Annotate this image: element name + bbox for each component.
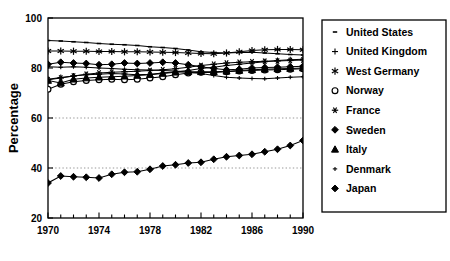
legend-label: Japan (346, 182, 376, 194)
x-tick-label: 1978 (139, 225, 162, 236)
x-tick-label: 1986 (241, 225, 264, 236)
legend-label: Italy (346, 143, 367, 155)
y-tick-label: 100 (25, 13, 42, 24)
legend-label: United States (346, 26, 413, 38)
legend-marker-circle-open (332, 88, 338, 94)
x-tick-label: 1974 (88, 225, 111, 236)
y-tick-label: 80 (31, 63, 43, 74)
y-axis-label: Percentage (6, 83, 21, 153)
legend-item-united-kingdom[interactable]: United Kingdom (332, 45, 427, 57)
legend-label: United Kingdom (346, 45, 427, 57)
legend-label: West Germany (346, 65, 419, 77)
x-tick-label: 1970 (37, 225, 60, 236)
x-tick-label: 1990 (292, 225, 315, 236)
y-tick-label: 40 (31, 163, 43, 174)
legend-label: Denmark (346, 163, 391, 175)
chart-legend: United StatesUnited KingdomWest GermanyN… (322, 20, 446, 212)
legend-label: Norway (346, 84, 384, 96)
y-tick-label: 60 (31, 113, 43, 124)
legend-item-west-germany[interactable]: West Germany (332, 65, 420, 77)
y-tick-label: 20 (31, 213, 43, 224)
legend-label: France (346, 104, 381, 116)
chart-figure: 20406080100197019741978198219861990Perce… (0, 0, 450, 261)
x-tick-label: 1982 (190, 225, 213, 236)
legend-label: Sweden (346, 124, 386, 136)
